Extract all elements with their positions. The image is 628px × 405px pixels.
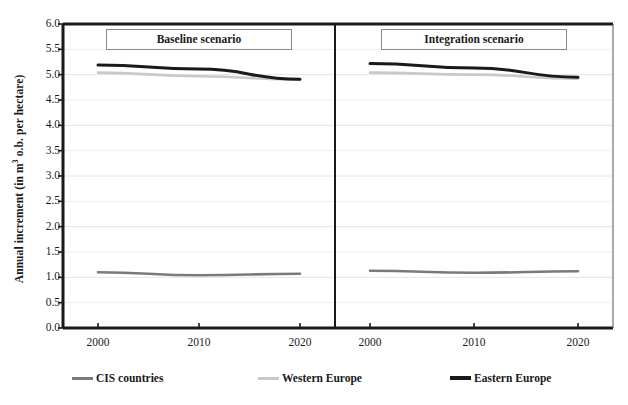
plot-canvas: [0, 0, 628, 405]
chart-legend: CIS countriesWestern EuropeEastern Europ…: [0, 366, 628, 392]
legend-label: CIS countries: [96, 372, 163, 384]
legend-item-western-europe: Western Europe: [258, 372, 362, 384]
chart-figure: Annual increment (in m3 o.b. per hectare…: [0, 0, 628, 405]
series-line-cis-countries: [370, 271, 578, 273]
legend-swatch: [450, 376, 471, 380]
legend-label: Western Europe: [282, 372, 362, 384]
legend-item-eastern-europe: Eastern Europe: [450, 372, 551, 384]
legend-label: Eastern Europe: [474, 372, 551, 384]
legend-item-cis-countries: CIS countries: [72, 372, 163, 384]
legend-swatch: [72, 377, 93, 380]
legend-swatch: [258, 377, 279, 380]
panel-title-integration: Integration scenario: [381, 29, 567, 50]
series-line-cis-countries: [98, 272, 300, 275]
panel-title-baseline: Baseline scenario: [106, 29, 292, 50]
